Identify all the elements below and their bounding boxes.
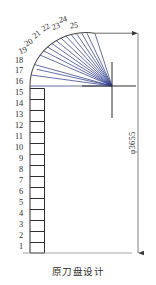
cutter-label-8: 8 [19, 166, 23, 174]
cutter-label-5: 5 [19, 199, 23, 207]
cutter-label-6: 6 [19, 188, 23, 196]
cutter-label-25: 25 [70, 22, 79, 31]
cutter-label-1: 1 [19, 243, 23, 251]
cutter-label-17: 17 [15, 67, 23, 75]
cutter-label-3: 3 [19, 221, 23, 229]
cutter-label-16: 16 [15, 78, 23, 86]
cutter-label-14: 14 [15, 100, 23, 108]
linear-cutter-rail [30, 86, 45, 253]
cutter-label-10: 10 [15, 144, 23, 152]
cutter-label-24: 24 [58, 15, 67, 25]
cutter-label-2: 2 [19, 232, 23, 240]
cutter-label-7: 7 [19, 177, 23, 185]
figure-caption: 原刀盘设计 [0, 264, 156, 278]
cutterhead-arc-profile [30, 33, 95, 86]
cutter-label-15: 15 [15, 89, 23, 97]
diameter-dimension-label: φ3655 [127, 123, 137, 163]
cutter-label-13: 13 [15, 111, 23, 119]
cutter-label-12: 12 [15, 122, 23, 130]
cutter-label-11: 11 [15, 133, 23, 141]
cutter-label-9: 9 [19, 155, 23, 163]
cutter-spokes [30, 33, 112, 86]
cutterhead-drawing: 1 2 3 4 5 6 7 8 9 10 11 12 13 14 15 16 1… [0, 0, 156, 285]
cutter-label-18: 18 [15, 57, 23, 65]
cutter-label-4: 4 [19, 210, 23, 218]
